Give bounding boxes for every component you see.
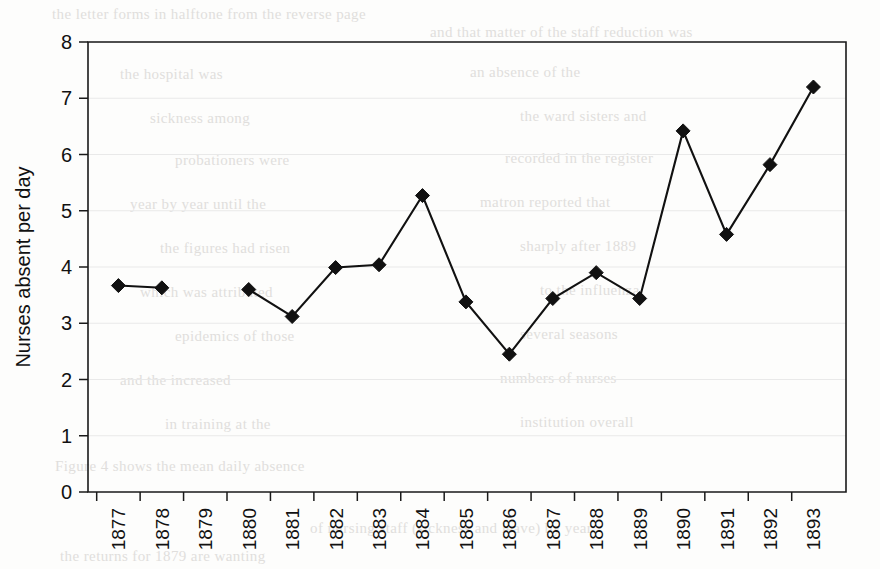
data-point-marker (763, 158, 777, 172)
x-tick-label: 1887 (543, 508, 564, 550)
data-point-marker (111, 279, 125, 293)
series-markers (111, 80, 820, 361)
x-tick-label: 1880 (239, 508, 260, 550)
data-point-marker (242, 283, 256, 297)
data-point-marker (372, 258, 386, 272)
y-tick-label: 2 (61, 369, 72, 391)
y-tick-label: 5 (61, 200, 72, 222)
y-tick-label: 4 (61, 256, 72, 278)
x-tick-label: 1893 (803, 508, 824, 550)
data-point-marker (589, 266, 603, 280)
x-tick-label: 1884 (412, 508, 433, 551)
data-point-marker (415, 189, 429, 203)
data-point-marker (155, 281, 169, 295)
data-point-marker (633, 292, 647, 306)
data-point-marker (720, 227, 734, 241)
x-tick-label: 1879 (195, 508, 216, 550)
x-axis-ticks (97, 492, 792, 501)
x-tick-label: 1888 (586, 508, 607, 550)
y-tick-label: 1 (61, 425, 72, 447)
y-tick-labels: 012345678 (61, 31, 72, 503)
gridlines (88, 42, 846, 436)
y-tick-label: 0 (61, 481, 72, 503)
x-tick-label: 1883 (369, 508, 390, 550)
x-tick-label: 1890 (673, 508, 694, 550)
chart-figure: the letter forms in halftone from the re… (0, 0, 880, 569)
x-tick-label: 1878 (152, 508, 173, 550)
line-chart: 012345678 187718781879188018811882188318… (0, 0, 880, 569)
data-point-marker (806, 80, 820, 94)
x-tick-labels: 1877187818791880188118821883188418851886… (108, 508, 824, 551)
y-axis-ticks (79, 42, 88, 492)
y-tick-label: 7 (61, 87, 72, 109)
x-tick-label: 1885 (456, 508, 477, 550)
x-tick-label: 1882 (326, 508, 347, 550)
series-line (118, 87, 813, 354)
data-point-marker (676, 124, 690, 138)
y-axis-title: Nurses absent per day (12, 166, 34, 367)
y-tick-label: 8 (61, 31, 72, 53)
x-tick-label: 1891 (717, 508, 738, 550)
x-tick-label: 1877 (108, 508, 129, 550)
x-tick-label: 1892 (760, 508, 781, 550)
x-tick-label: 1881 (282, 508, 303, 550)
y-tick-label: 3 (61, 312, 72, 334)
x-tick-label: 1889 (630, 508, 651, 550)
x-tick-label: 1886 (499, 508, 520, 550)
y-tick-label: 6 (61, 144, 72, 166)
